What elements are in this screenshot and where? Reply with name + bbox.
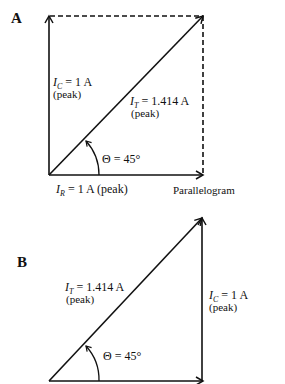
angle-arc-icon <box>86 346 99 381</box>
ic-peak-note: (peak) <box>209 301 237 314</box>
angle-label: Θ = 45° <box>102 152 140 166</box>
it-peak-note: (peak) <box>66 293 94 306</box>
phasor-diagram: A IC= 1 A (peak) IT= 1.414 A (peak) Θ = … <box>0 0 285 384</box>
it-peak-note: (peak) <box>131 107 159 120</box>
ic-peak-note: (peak) <box>53 88 81 101</box>
panel-b: B IT= 1.414 A (peak) IC= 1 A (peak) Θ = … <box>17 218 248 381</box>
angle-label: Θ = 45° <box>103 349 141 363</box>
panel-b-label: B <box>17 254 27 270</box>
ir-label: IR= 1 A (peak) <box>55 182 128 198</box>
panel-a: A IC= 1 A (peak) IT= 1.414 A (peak) Θ = … <box>11 10 235 198</box>
angle-arc-icon <box>86 141 99 175</box>
panel-a-label: A <box>11 10 22 26</box>
parallelogram-caption: Parallelogram <box>173 184 235 196</box>
